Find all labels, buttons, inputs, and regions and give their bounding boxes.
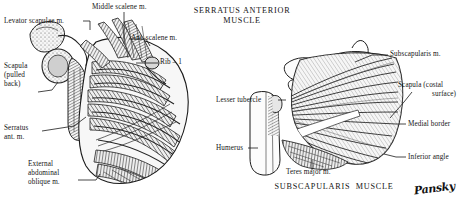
label-scapula-costal-surface-line2: surface)	[398, 90, 456, 98]
figure-title-line1: SERRATUS ANTERIOR	[188, 6, 296, 16]
figure-title-line2: MUSCLE	[188, 16, 296, 26]
label-scapula-pulled-back-line2: (pulled	[4, 71, 25, 79]
label-ant-scalene: Ant. scalene m.	[131, 34, 177, 42]
label-scapula-pulled-back-line3: back)	[4, 80, 20, 88]
label-external-abdominal-oblique-line1: External	[28, 160, 53, 168]
label-levator-scapulae: Levator scapulae m.	[4, 17, 64, 25]
right-panel-artwork	[248, 41, 420, 176]
label-middle-scalene: Middle scalene m.	[92, 3, 147, 11]
label-rib-1: Rib – 1	[160, 58, 182, 66]
label-teres-major: Teres major m.	[286, 168, 331, 176]
label-serratus-ant-line2: ant. m.	[4, 133, 24, 141]
label-external-abdominal-oblique-line2: abdominal	[28, 169, 59, 177]
label-medial-border: Medial border	[408, 120, 450, 128]
label-inferior-angle: Inferior angle	[408, 153, 449, 161]
label-lesser-tubercle: Lesser tubercle	[216, 96, 261, 104]
label-external-abdominal-oblique-line3: oblique m.	[28, 178, 60, 186]
label-scapula-costal-surface-line1: Scapula (costal	[398, 81, 443, 89]
label-subscapularis: Subscapularis m.	[390, 50, 441, 58]
figure-caption-subscapularis: SUBSCAPULARIS MUSCLE	[272, 182, 396, 192]
label-humerus: Humerus	[216, 144, 243, 152]
label-scapula-pulled-back-line1: Scapula	[4, 62, 27, 70]
label-serratus-ant-line1: Serratus	[4, 124, 28, 132]
